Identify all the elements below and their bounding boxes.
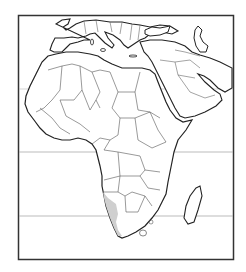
island-sicily xyxy=(101,49,106,52)
island-crete xyxy=(129,55,137,57)
island-sardinia xyxy=(91,39,94,45)
africa-outline-map xyxy=(0,0,246,272)
